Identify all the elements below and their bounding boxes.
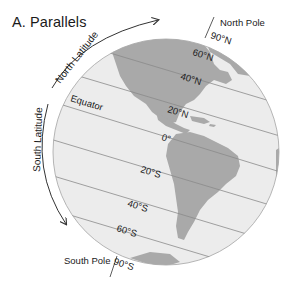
north-pole-latitude: 90°N <box>209 29 233 46</box>
land-africa-edge <box>276 146 289 200</box>
parallels-diagram: A. Parallels <box>0 0 289 283</box>
north-pole-label: North Pole <box>220 17 265 28</box>
south-pole-label: South Pole <box>64 255 110 266</box>
globe-figure: North Latitude South Latitude North Pole… <box>0 0 289 283</box>
south-latitude-label: South Latitude <box>31 107 44 172</box>
